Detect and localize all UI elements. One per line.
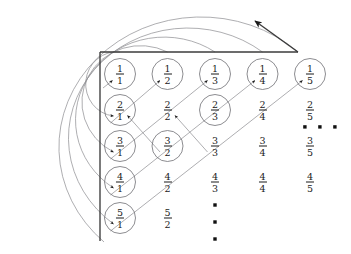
fraction-denominator: 3: [211, 183, 219, 193]
axis-group: [100, 21, 298, 241]
fraction-cell: 3 1: [116, 136, 124, 157]
fraction-numerator: 1: [163, 64, 171, 75]
fraction-cell: 1 5: [306, 64, 314, 85]
fraction-numerator: 2: [258, 100, 266, 111]
fraction-denominator: 5: [306, 75, 314, 85]
fraction-denominator: 4: [258, 147, 266, 157]
fraction-numerator: 1: [211, 64, 219, 75]
fraction-numerator: 4: [116, 172, 124, 183]
fraction-cell: 1 1: [116, 64, 124, 85]
fraction-numerator: 2: [116, 100, 124, 111]
fraction-denominator: 2: [163, 219, 171, 229]
fraction-denominator: 3: [211, 75, 219, 85]
diagonal-arrow-partial-3: [175, 116, 208, 153]
fraction-numerator: 3: [211, 136, 219, 147]
fraction-cell: 4 4: [258, 172, 266, 193]
fraction-denominator: 2: [163, 183, 171, 193]
fraction-numerator: 4: [258, 172, 266, 183]
fraction-cell: 4 5: [306, 172, 314, 193]
fraction-cell: 2 4: [258, 100, 266, 121]
vertical-ellipsis: [213, 203, 216, 240]
fraction-numerator: 1: [116, 64, 124, 75]
ellipsis-dot: [333, 125, 336, 128]
diagonal-arrow-3: [111, 81, 208, 160]
fraction-denominator: 1: [116, 75, 124, 85]
fraction-numerator: 4: [163, 172, 171, 183]
fraction-cell: 2 5: [306, 100, 314, 121]
wraparound-arc-5: [59, 17, 298, 242]
fraction-cell: 3 2: [163, 136, 171, 157]
fraction-numerator: 5: [116, 208, 124, 219]
fraction-cell: 1 2: [163, 64, 171, 85]
fraction-numerator: 2: [211, 100, 219, 111]
figure-canvas: [0, 0, 351, 254]
fraction-numerator: 2: [306, 100, 314, 111]
fraction-numerator: 3: [116, 136, 124, 147]
fraction-numerator: 2: [163, 100, 171, 111]
fraction-numerator: 4: [306, 172, 314, 183]
diagonal-arrow-5: [111, 81, 303, 232]
wraparound-arc-group: [59, 17, 298, 242]
fraction-denominator: 4: [258, 75, 266, 85]
fraction-numerator: 1: [306, 64, 314, 75]
fraction-cell: 4 2: [163, 172, 171, 193]
fraction-denominator: 4: [258, 111, 266, 121]
fraction-cell: 1 4: [258, 64, 266, 85]
cantor-enumeration-figure: 1 1 1 2 1 3 1 4 1 5 2 1 2 2 2 3 2 4 2 5 …: [0, 0, 351, 254]
fraction-cell: 2 2: [163, 100, 171, 121]
fraction-denominator: 1: [116, 111, 124, 121]
ellipsis-dot: [213, 237, 216, 240]
fraction-denominator: 3: [211, 147, 219, 157]
diagonal-arrow-partial-2: [128, 116, 161, 153]
fraction-cell: 3 4: [258, 136, 266, 157]
fraction-denominator: 1: [116, 183, 124, 193]
fraction-denominator: 5: [306, 147, 314, 157]
fraction-denominator: 4: [258, 183, 266, 193]
continue-diagonal-arrow: [255, 21, 298, 52]
fraction-numerator: 3: [163, 136, 171, 147]
fraction-numerator: 5: [163, 208, 171, 219]
fraction-denominator: 2: [163, 75, 171, 85]
fraction-denominator: 1: [116, 147, 124, 157]
fraction-denominator: 2: [163, 111, 171, 121]
fraction-cell: 5 1: [116, 208, 124, 229]
fraction-cell: 3 5: [306, 136, 314, 157]
fraction-cell: 3 3: [211, 136, 219, 157]
fraction-denominator: 1: [116, 219, 124, 229]
fraction-numerator: 3: [306, 136, 314, 147]
fraction-cell: 4 3: [211, 172, 219, 193]
ellipsis-dot: [213, 220, 216, 223]
fraction-denominator: 5: [306, 111, 314, 121]
fraction-denominator: 2: [163, 147, 171, 157]
ellipsis-dot: [318, 125, 321, 128]
fraction-cell: 5 2: [163, 208, 171, 229]
fraction-denominator: 3: [211, 111, 219, 121]
fraction-cell: 1 3: [211, 64, 219, 85]
diagonal-arrow-group: [103, 81, 303, 232]
fraction-cell: 2 1: [116, 100, 124, 121]
wraparound-arc-1: [86, 52, 120, 116]
diagonal-arrow-4: [111, 81, 256, 196]
fraction-numerator: 4: [211, 172, 219, 183]
fraction-cell: 4 1: [116, 172, 124, 193]
fraction-cell: 2 3: [211, 100, 219, 121]
ellipsis-dot: [303, 125, 306, 128]
fraction-numerator: 3: [258, 136, 266, 147]
horizontal-ellipsis: [303, 125, 336, 128]
ellipsis-dot: [213, 203, 216, 206]
fraction-numerator: 1: [258, 64, 266, 75]
fraction-denominator: 5: [306, 183, 314, 193]
